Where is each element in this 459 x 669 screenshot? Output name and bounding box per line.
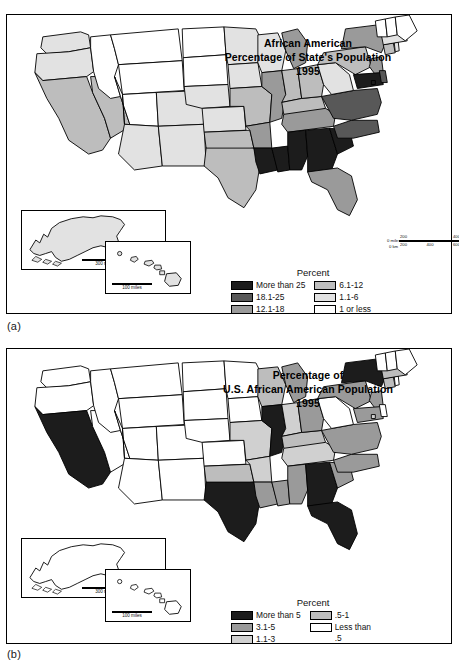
state-tx	[204, 148, 260, 208]
map-b-legend-column-1: More than 5 3.1-5 1.1-3	[231, 610, 301, 645]
map-a-title-line-2: Percentage of State's Population	[203, 51, 413, 65]
map-a-hawaii-scale: 100 miles	[112, 283, 152, 290]
state-or	[35, 48, 94, 81]
legend-swatch	[231, 611, 253, 620]
state-nm	[158, 124, 206, 166]
legend-label: 3.1-5	[256, 622, 275, 633]
state-tx	[204, 482, 260, 542]
state-nm	[158, 458, 206, 500]
map-a-legend-column-1: More than 25 18.1-25 12.1-18	[231, 280, 305, 315]
state-al	[288, 130, 308, 170]
map-a-title-line-3: 1995	[203, 65, 413, 79]
legend-swatch	[310, 623, 332, 632]
state-ks	[202, 106, 246, 132]
state-az	[118, 458, 162, 504]
state-wy	[118, 61, 184, 95]
map-b-frame: Percentage of U.S. African American Popu…	[6, 348, 452, 644]
map-a-title: African American Percentage of State's P…	[203, 37, 413, 79]
legend-swatch	[231, 281, 253, 290]
state-az	[118, 124, 162, 170]
map-b-title-line-3: 1995	[203, 397, 413, 411]
map-a-scalebar-miles-unit: 0 miles	[387, 238, 400, 243]
figure-b: Percentage of U.S. African American Popu…	[0, 334, 459, 669]
legend-item: 3.1-5	[231, 622, 301, 633]
legend-label: 1.1-6	[339, 292, 358, 303]
legend-label: 6.1-12	[339, 280, 363, 291]
legend-item: 1.1-6	[314, 292, 371, 303]
legend-label: .5-1	[335, 610, 349, 621]
figure-b-panel-label: (b)	[7, 648, 21, 660]
legend-label: Less than .5	[335, 622, 371, 643]
state-dc	[371, 81, 375, 85]
state-mt	[111, 363, 183, 399]
state-nc	[334, 120, 380, 138]
legend-label: 12.1-18	[256, 304, 284, 315]
map-b-title-line-1: Percentage of	[203, 369, 413, 383]
map-a-frame: African American Percentage of State's P…	[6, 14, 452, 314]
map-b-hawaii-scale: 100 miles	[112, 611, 152, 618]
legend-swatch	[314, 293, 336, 302]
map-a-scalebar-km-unit: 0 km	[389, 244, 398, 249]
legend-label: 1 or less	[339, 304, 371, 315]
legend-item: .5-1	[310, 610, 371, 621]
state-al	[288, 464, 308, 504]
legend-label: 1.1-3	[256, 634, 275, 645]
map-b-title: Percentage of U.S. African American Popu…	[203, 369, 413, 411]
legend-item: More than 25	[231, 280, 305, 291]
legend-swatch	[314, 305, 336, 314]
map-a-scalebar-km-ticks: 200 400 600	[399, 242, 459, 247]
state-fl	[308, 502, 358, 550]
legend-item: 1.1-3	[231, 634, 301, 645]
figure-page: African American Percentage of State's P…	[0, 0, 459, 669]
state-ne	[184, 85, 230, 109]
legend-swatch	[310, 611, 332, 620]
state-or	[35, 382, 94, 415]
legend-label: More than 25	[256, 280, 305, 291]
map-b-legend-title: Percent	[231, 597, 395, 608]
map-b-title-line-2: U.S. African American Population	[203, 383, 413, 397]
map-a-scalebar-miles-ticks: 200 400	[399, 234, 459, 239]
figure-a: African American Percentage of State's P…	[0, 0, 459, 345]
state-mt	[111, 29, 183, 65]
legend-swatch	[314, 281, 336, 290]
map-a-legend-column-2: 6.1-12 1.1-6 1 or less	[314, 280, 371, 315]
legend-item: 18.1-25	[231, 292, 305, 303]
state-ne	[184, 419, 230, 443]
map-a-title-line-1: African American	[203, 37, 413, 51]
state-nc	[334, 454, 380, 472]
map-a-hawaii-inset: 100 miles	[105, 241, 191, 294]
legend-item: 6.1-12	[314, 280, 371, 291]
state-wy	[118, 395, 184, 429]
legend-item: Less than .5	[310, 622, 371, 643]
legend-label: More than 5	[256, 610, 301, 621]
state-ks	[202, 440, 246, 466]
legend-item: More than 5	[231, 610, 301, 621]
legend-swatch	[231, 635, 253, 644]
state-dc	[371, 415, 375, 419]
legend-item: 12.1-18	[231, 304, 305, 315]
legend-swatch	[231, 305, 253, 314]
map-a-legend: Percent More than 25 18.1-25	[231, 267, 395, 315]
legend-swatch	[231, 623, 253, 632]
map-b-legend: Percent More than 5 3.1-5 1.	[231, 597, 395, 645]
map-b-hawaii-inset: 100 miles	[105, 569, 191, 622]
legend-label: 18.1-25	[256, 292, 284, 303]
map-b-legend-column-2: .5-1 Less than .5	[310, 610, 371, 645]
map-a-legend-title: Percent	[231, 267, 395, 278]
figure-a-panel-label: (a)	[7, 320, 21, 332]
map-a-scalebar: 200 400 200 400 600 0 miles 0 km	[399, 234, 459, 247]
legend-item: 1 or less	[314, 304, 371, 315]
state-fl	[308, 168, 358, 216]
legend-swatch	[231, 293, 253, 302]
